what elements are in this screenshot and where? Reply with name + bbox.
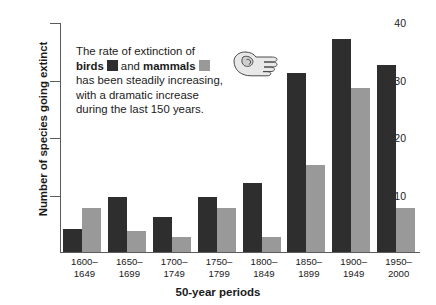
x-axis-title: 50-year periods bbox=[0, 286, 436, 298]
bar-birds bbox=[332, 39, 351, 252]
bar-mammals bbox=[217, 208, 236, 251]
x-axis-labels: 1600–16491650–16991700–17491750–17991800… bbox=[61, 256, 420, 286]
bar-birds bbox=[198, 197, 217, 252]
pointing-hand-icon bbox=[231, 47, 283, 79]
bar-mammals bbox=[82, 208, 101, 251]
annotation-text-block: The rate of extinction of birdsand mamma… bbox=[76, 44, 241, 117]
annotation-line-3: has been steadily increasing, bbox=[76, 73, 241, 88]
annotation-line-2: birdsand mammals bbox=[76, 59, 241, 74]
legend-label-birds: birds bbox=[76, 60, 104, 72]
y-tick-20 bbox=[50, 138, 60, 139]
bar-group bbox=[375, 20, 420, 252]
bar-mammals bbox=[351, 88, 370, 252]
y-tick-40 bbox=[50, 23, 60, 24]
bar-birds bbox=[287, 73, 306, 251]
x-axis-label: 1950–2000 bbox=[369, 256, 429, 281]
bar-birds bbox=[377, 65, 396, 252]
bar-group bbox=[285, 20, 330, 252]
annotation-line-5: during the last 150 years. bbox=[76, 102, 241, 117]
bar-birds bbox=[108, 197, 127, 252]
bar-birds bbox=[63, 229, 82, 252]
annotation-conjunction: and bbox=[121, 60, 140, 72]
bar-mammals bbox=[127, 231, 146, 251]
y-tick-30 bbox=[50, 81, 60, 82]
legend-label-mammals: mammals bbox=[143, 60, 196, 72]
y-axis-title: Number of species going extinct bbox=[37, 24, 49, 234]
legend-swatch-birds bbox=[107, 60, 118, 71]
bar-mammals bbox=[262, 237, 281, 251]
y-tick-10 bbox=[50, 196, 60, 197]
legend-swatch-mammals bbox=[199, 60, 210, 71]
annotation-line-4: with a dramatic increase bbox=[76, 88, 241, 103]
bar-mammals bbox=[172, 237, 191, 251]
bar-birds bbox=[243, 183, 262, 252]
bar-mammals bbox=[396, 208, 415, 251]
bar-mammals bbox=[306, 165, 325, 251]
bar-group bbox=[330, 20, 375, 252]
bar-birds bbox=[153, 217, 172, 252]
extinction-bar-chart: Number of species going extinct 10203040… bbox=[0, 0, 436, 305]
annotation-line-1: The rate of extinction of bbox=[76, 44, 241, 59]
